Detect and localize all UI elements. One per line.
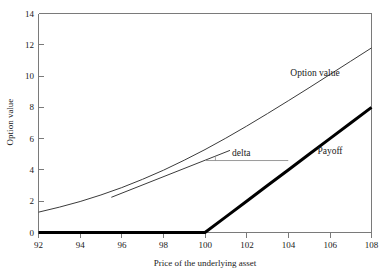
x-tick-label-106: 106 bbox=[324, 240, 338, 250]
x-tick-label-98: 98 bbox=[159, 240, 169, 250]
x-tick-label-104: 104 bbox=[282, 240, 296, 250]
x-tick-label-102: 102 bbox=[240, 240, 254, 250]
x-tick-label-100: 100 bbox=[198, 240, 212, 250]
delta-label: delta bbox=[232, 148, 251, 158]
y-tick-label-0: 0 bbox=[30, 228, 35, 238]
y-tick-label-2: 2 bbox=[30, 196, 35, 206]
x-tick-label-92: 92 bbox=[34, 240, 43, 250]
x-tick-label-108: 108 bbox=[365, 240, 379, 250]
y-tick-label-6: 6 bbox=[30, 134, 35, 144]
x-axis-title: Price of the underlying asset bbox=[154, 258, 257, 268]
y-axis-title: Option value bbox=[5, 99, 15, 146]
y-tick-label-4: 4 bbox=[30, 165, 35, 175]
y-tick-label-12: 12 bbox=[25, 40, 34, 50]
option-value-series-label: Option value bbox=[290, 68, 339, 78]
x-tick-label-94: 94 bbox=[76, 240, 86, 250]
y-tick-label-8: 8 bbox=[30, 102, 35, 112]
y-tick-labels: 0 2 4 6 8 10 12 14 bbox=[25, 9, 35, 238]
x-tick-label-96: 96 bbox=[117, 240, 127, 250]
y-tick-label-14: 14 bbox=[25, 9, 35, 19]
y-tick-label-10: 10 bbox=[25, 71, 35, 81]
payoff-series-label: Payoff bbox=[317, 146, 343, 156]
option-value-chart: 0 2 4 6 8 10 12 14 92 94 96 98 100 102 1… bbox=[0, 0, 390, 279]
x-tick-labels: 92 94 96 98 100 102 104 106 108 bbox=[34, 240, 379, 250]
chart-figure: 0 2 4 6 8 10 12 14 92 94 96 98 100 102 1… bbox=[0, 0, 390, 279]
